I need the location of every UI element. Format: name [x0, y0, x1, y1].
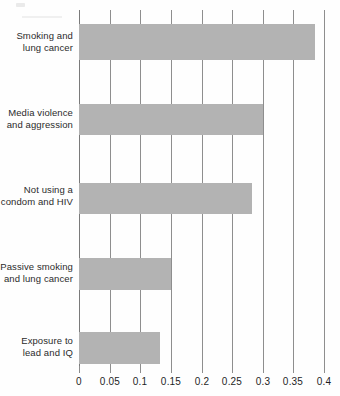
tick-mark-0.2	[202, 366, 203, 373]
category-label-2-line1: Not using a	[24, 184, 73, 195]
tick-mark-0.4	[324, 366, 325, 373]
category-label-1-line1: Media violence	[8, 107, 73, 118]
tick-label-0.15: 0.15	[161, 376, 181, 387]
bar-3	[79, 258, 171, 290]
category-label-2: Not using a condom and HIV	[0, 184, 73, 207]
tick-label-0.05: 0.05	[100, 376, 120, 387]
gridline-0.3	[263, 10, 264, 366]
category-label-2-line2: condom and HIV	[1, 196, 73, 207]
tick-label-0.4: 0.4	[317, 376, 332, 387]
tick-mark-0	[79, 366, 80, 373]
tick-label-0.25: 0.25	[222, 376, 242, 387]
category-label-1-line2: and aggression	[7, 119, 73, 130]
tick-label-0.1: 0.1	[133, 376, 148, 387]
tick-label-0.35: 0.35	[283, 376, 303, 387]
bar-0	[79, 24, 315, 60]
category-label-3: Passive smoking and lung cancer	[0, 261, 73, 284]
category-label-0: Smoking and lung cancer	[0, 30, 73, 53]
gridline-0.35	[293, 10, 294, 366]
bar-chart: Smoking and lung cancer Media violence a…	[0, 0, 340, 396]
category-label-4: Exposure to lead and IQ	[0, 335, 73, 358]
tick-mark-0.1	[140, 366, 141, 373]
category-labels: Smoking and lung cancer Media violence a…	[0, 0, 76, 396]
category-label-3-line2: and lung cancer	[4, 273, 73, 284]
bar-1	[79, 104, 263, 135]
tick-mark-0.05	[110, 366, 111, 373]
category-label-1: Media violence and aggression	[0, 107, 73, 130]
category-label-0-line1: Smoking and	[16, 30, 73, 41]
tick-mark-0.3	[263, 366, 264, 373]
category-label-0-line2: lung cancer	[23, 42, 73, 53]
gridline-0.4	[324, 10, 325, 366]
tick-label-0: 0	[76, 376, 82, 387]
bar-4	[79, 332, 160, 364]
tick-mark-0.25	[232, 366, 233, 373]
tick-label-0.3: 0.3	[256, 376, 271, 387]
category-label-3-line1: Passive smoking	[0, 261, 73, 272]
plot-area	[79, 10, 324, 366]
tick-mark-0.15	[171, 366, 172, 373]
tick-mark-0.35	[293, 366, 294, 373]
category-label-4-line2: lead and IQ	[23, 347, 73, 358]
tick-label-0.2: 0.2	[195, 376, 210, 387]
bar-2	[79, 183, 252, 214]
category-label-4-line1: Exposure to	[21, 335, 73, 346]
